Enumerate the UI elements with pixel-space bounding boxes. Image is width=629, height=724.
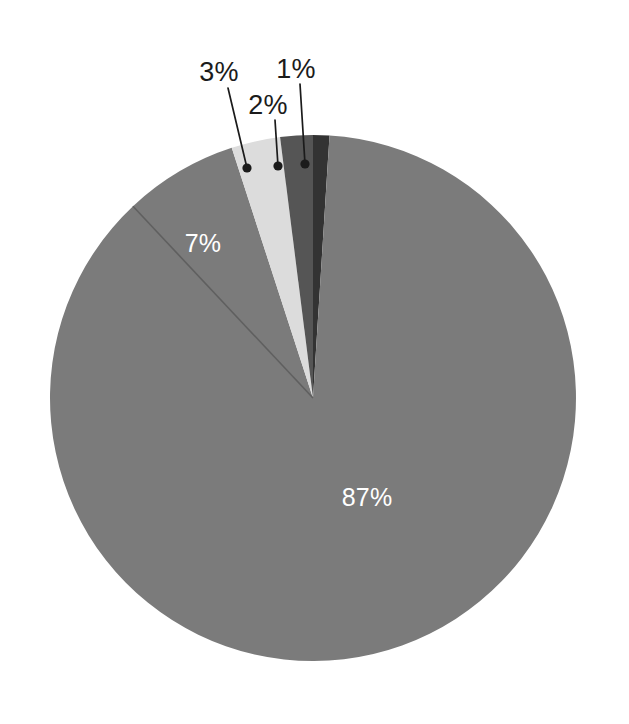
pie-label-1-percent: 1% bbox=[276, 54, 315, 84]
pie-label-87-percent: 87% bbox=[342, 483, 393, 511]
leader-dot-2-percent bbox=[273, 161, 282, 170]
pie-label-2-percent: 2% bbox=[248, 90, 287, 120]
pie-chart-figure: 1%87%7%3%2% bbox=[0, 0, 629, 724]
pie-label-3-percent: 3% bbox=[199, 57, 238, 87]
pie-label-7-percent: 7% bbox=[185, 229, 222, 257]
leader-dot-3-percent bbox=[242, 163, 251, 172]
pie-chart-canvas: 1%87%7%3%2% bbox=[0, 0, 629, 724]
leader-dot-1-percent bbox=[300, 159, 309, 168]
